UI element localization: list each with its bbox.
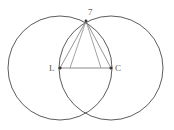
point-right-center xyxy=(109,66,112,69)
label-apex: 7 xyxy=(88,8,93,17)
segment-left-side xyxy=(60,21,86,68)
geometry-figure: 7 L C xyxy=(0,0,174,130)
point-apex xyxy=(85,20,88,23)
label-right-vertex: C xyxy=(115,64,121,73)
label-left-vertex: L xyxy=(49,64,55,73)
point-left-center xyxy=(58,66,61,69)
construction-canvas xyxy=(0,0,174,130)
